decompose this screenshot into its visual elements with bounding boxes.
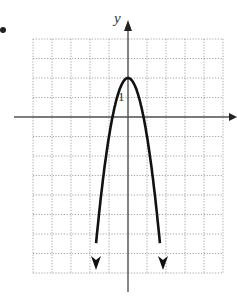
y-axis-label: y [114, 10, 121, 27]
tick-label-one: 1 [118, 89, 125, 105]
y-axis-arrow-icon [124, 20, 132, 31]
right-arrow-icon [158, 256, 168, 270]
graph [0, 0, 237, 298]
x-axis-arrow-icon [229, 113, 237, 121]
left-arrow-icon [91, 256, 101, 270]
